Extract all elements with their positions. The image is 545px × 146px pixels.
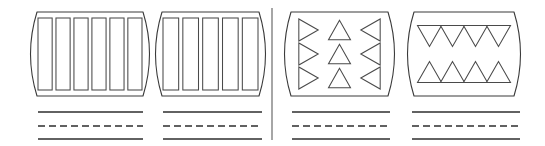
vertical-bar[interactable] [110, 18, 124, 90]
vertical-bar[interactable] [183, 18, 199, 90]
vertical-bar[interactable] [92, 18, 106, 90]
barrel-panel-triangles-two-rows[interactable] [408, 12, 521, 96]
vertical-bar[interactable] [128, 18, 142, 90]
vertical-bar[interactable] [223, 18, 239, 90]
figure-canvas: Four patterned barrel panels with captio… [0, 0, 545, 146]
vertical-bar[interactable] [203, 18, 219, 90]
group-3 [285, 12, 395, 139]
vertical-bar[interactable] [56, 18, 70, 90]
group-1 [31, 12, 150, 139]
vertical-bar[interactable] [38, 18, 52, 90]
vertical-bar[interactable] [242, 18, 258, 90]
vertical-bar[interactable] [74, 18, 88, 90]
group-2 [156, 12, 266, 139]
panel-groups-layer [31, 12, 521, 139]
vertical-bar[interactable] [163, 18, 179, 90]
group-4 [408, 12, 521, 139]
figure-svg [0, 0, 545, 146]
